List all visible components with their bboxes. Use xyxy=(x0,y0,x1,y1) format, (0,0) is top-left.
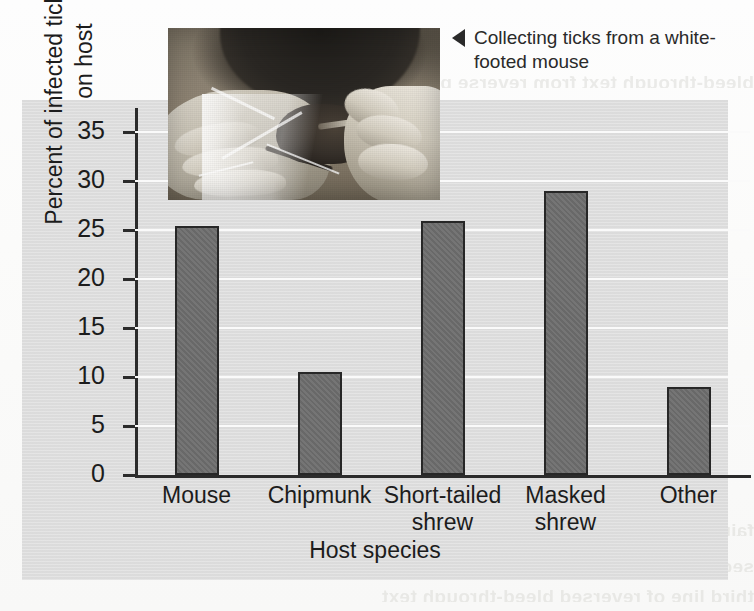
left-triangle-marker-icon xyxy=(452,29,465,47)
photo-caption: Collecting ticks from a white-footed mou… xyxy=(452,26,742,75)
y-axis-tick-label: 5 xyxy=(91,410,105,439)
bar-other xyxy=(667,387,711,475)
x-axis-label-mouse: Mouse xyxy=(135,482,258,509)
x-axis-label-other: Other xyxy=(627,482,750,509)
y-axis-tick-label: 25 xyxy=(77,214,105,243)
bar-mouse xyxy=(175,226,219,475)
y-axis-tick: 35 xyxy=(123,131,135,134)
x-axis-label-chipmunk: Chipmunk xyxy=(258,482,381,509)
y-axis-tick: 25 xyxy=(123,229,135,232)
bar-chipmunk xyxy=(298,372,342,475)
page-bleed-line-4: third line of reversed bleed-through tex… xyxy=(40,586,754,602)
y-axis-tick-label: 15 xyxy=(77,312,105,341)
y-axis-tick: 5 xyxy=(123,425,135,428)
photo-caption-text: Collecting ticks from a white-footed mou… xyxy=(474,26,742,75)
bar-short-tailed-shrew xyxy=(421,221,465,475)
y-axis-tick-label: 0 xyxy=(91,459,105,488)
photo-collecting-ticks xyxy=(168,28,440,200)
y-axis-tick-label: 35 xyxy=(77,116,105,145)
x-axis-line xyxy=(135,475,751,478)
y-axis-tick: 15 xyxy=(123,327,135,330)
bar-masked-shrew xyxy=(544,191,588,475)
x-axis-label-masked-shrew: Masked shrew xyxy=(504,482,627,536)
y-axis-tick: 10 xyxy=(123,376,135,379)
y-axis-tick-label: 10 xyxy=(77,361,105,390)
y-axis-tick: 0 xyxy=(123,474,135,477)
x-axis-label-short-tailed-shrew: Short-tailed shrew xyxy=(381,482,504,536)
y-axis-tick: 20 xyxy=(123,278,135,281)
y-axis-tick: 30 xyxy=(123,180,135,183)
x-axis-title: Host species xyxy=(22,537,728,564)
y-axis-tick-label: 30 xyxy=(77,165,105,194)
photo-vignette xyxy=(168,28,440,200)
y-axis-tick-label: 20 xyxy=(77,263,105,292)
y-axis-line xyxy=(135,108,138,476)
